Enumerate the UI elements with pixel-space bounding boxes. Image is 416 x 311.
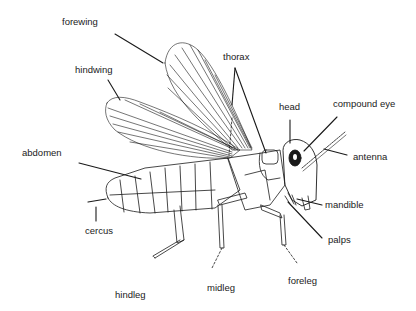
label-hindleg: hindleg xyxy=(115,290,146,300)
label-antenna: antenna xyxy=(353,152,387,162)
leader-forewing xyxy=(115,34,163,63)
head-shape xyxy=(283,139,317,206)
label-hindwing: hindwing xyxy=(75,65,113,75)
label-mandible: mandible xyxy=(325,200,364,210)
leader-antenna xyxy=(324,149,347,155)
leader-hindwing xyxy=(108,80,120,100)
label-abdomen: abdomen xyxy=(22,148,62,158)
hindwing-shape xyxy=(106,97,240,158)
label-palps: palps xyxy=(328,235,351,245)
leader-palps xyxy=(288,202,322,238)
foreleg-shape xyxy=(261,205,297,263)
leader-thorax-b xyxy=(235,68,266,153)
label-thorax: thorax xyxy=(223,52,249,62)
leader-abdomen xyxy=(79,163,141,179)
label-forewing: forewing xyxy=(62,17,98,27)
leader-compound-eye xyxy=(304,117,337,151)
midleg-shape xyxy=(212,193,247,268)
leader-thorax-a xyxy=(232,68,235,105)
insect-diagram: forewing hindwing abdomen cercus hindleg… xyxy=(0,0,416,311)
label-cercus: cercus xyxy=(85,226,113,236)
label-midleg: midleg xyxy=(207,283,235,293)
label-foreleg: foreleg xyxy=(288,276,317,286)
hindleg-shape xyxy=(153,206,184,258)
label-compound-eye: compound eye xyxy=(333,99,395,109)
label-head: head xyxy=(279,102,300,112)
